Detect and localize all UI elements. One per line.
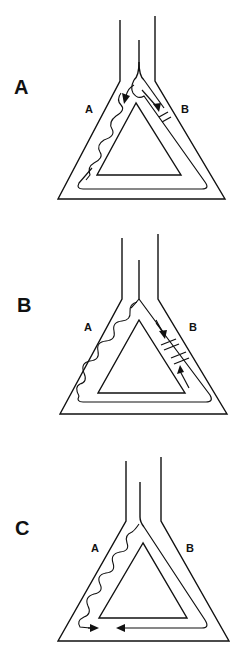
panel-a-arm-a-label: A (85, 103, 93, 115)
panel-c-arm-b-label: B (186, 542, 194, 554)
panel-b-channel-left-top (131, 299, 139, 308)
panel-a-inner-triangle (97, 103, 181, 175)
panel-a-label: A (14, 76, 28, 98)
panel-b: B A B (17, 234, 227, 414)
panel-a-block-bar-2 (162, 117, 171, 122)
panel-a-arm-b-label: B (181, 103, 189, 115)
panel-b-label: B (17, 294, 31, 316)
panel-c: C A B (15, 457, 229, 641)
panel-c-stem-divider (140, 482, 144, 527)
panel-b-arrow-up-shaft (180, 371, 189, 388)
panel-a-outer-wall (58, 16, 225, 199)
panel-a-block-bar-1 (159, 112, 168, 117)
panel-c-outer-wall (58, 457, 229, 641)
panel-b-block-upper-bar-2 (164, 344, 179, 350)
panel-c-arm-a-label: A (91, 542, 99, 554)
panel-b-arm-b-label: B (189, 321, 197, 333)
panel-a-arrow-a-icon (122, 93, 130, 104)
panel-a: A A B (14, 16, 225, 199)
panel-b-inner-triangle (98, 320, 185, 393)
panel-c-label: C (15, 517, 29, 539)
panel-c-arrow-right-icon (90, 624, 99, 632)
loop-circuit-diagram: A A B B A B (0, 0, 243, 649)
panel-a-stem-divider (134, 40, 139, 80)
panel-a-stem-divider-right (139, 62, 144, 80)
panel-b-arrow-down-icon (159, 330, 167, 339)
panel-b-slow-conduction-wave (77, 302, 137, 396)
panel-a-arrow-a-shaft (126, 85, 134, 96)
panel-b-arm-a-label: A (84, 321, 92, 333)
panel-c-channel-right (124, 527, 207, 628)
panel-c-inner-triangle (99, 543, 187, 618)
panel-b-arrow-up-icon (177, 365, 184, 374)
panel-c-slow-conduction-wave (79, 524, 139, 628)
panel-a-channel-loop (78, 80, 207, 189)
panel-c-arrow-left-icon (116, 624, 125, 632)
